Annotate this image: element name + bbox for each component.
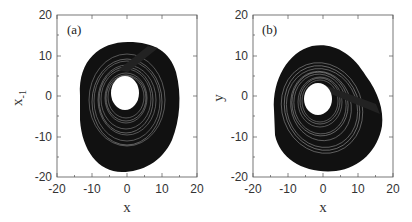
y-tick-b-3: -10 — [231, 130, 249, 144]
x-tick-a-0: -20 — [48, 182, 66, 196]
plot-b-svg: 20 10 0 -10 -20 -20 -10 0 10 20 x y (b) — [196, 0, 412, 222]
attractor-a — [80, 42, 180, 172]
x-tick-a-2: 0 — [124, 182, 131, 196]
panel-label-b: (b) — [262, 22, 277, 37]
x-tick-a-1: -10 — [83, 182, 101, 196]
attractor-b — [269, 45, 383, 171]
plot-a-svg: 20 10 0 -10 -20 -20 -10 0 10 20 x x-1 (a… — [0, 0, 206, 222]
x-tick-b-4: 20 — [386, 182, 400, 196]
panel-b: 20 10 0 -10 -20 -20 -10 0 10 20 x y (b) — [196, 0, 402, 222]
x-tick-b-1: -10 — [279, 182, 297, 196]
x-tick-b-3: 10 — [351, 182, 365, 196]
x-axis-label-a: x — [123, 199, 131, 215]
panel-a: 20 10 0 -10 -20 -20 -10 0 10 20 x x-1 (a… — [0, 0, 206, 222]
x-tick-b-2: 0 — [320, 182, 327, 196]
y-tick-a-2: 0 — [45, 89, 52, 103]
x-tick-b-0: -20 — [244, 182, 262, 196]
y-tick-b-1: 10 — [235, 49, 249, 63]
panel-label-a: (a) — [67, 22, 81, 37]
y-tick-a-1: 10 — [39, 49, 53, 63]
y-axis-label-a: x-1 — [9, 90, 28, 106]
x-axis-label-b: x — [319, 199, 327, 215]
y-axis-label-b: y — [210, 94, 226, 102]
y-tick-b-2: 0 — [241, 89, 248, 103]
y-tick-a-3: -10 — [35, 130, 53, 144]
y-tick-b-0: 20 — [235, 8, 249, 22]
y-tick-a-0: 20 — [39, 8, 53, 22]
x-tick-a-3: 10 — [155, 182, 169, 196]
